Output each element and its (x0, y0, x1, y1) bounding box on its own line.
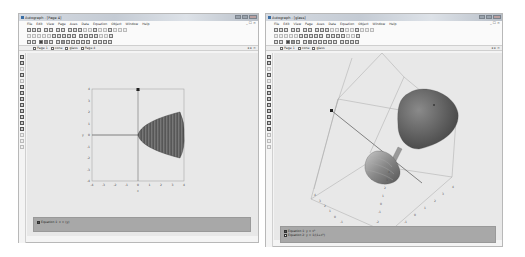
tab-page-1[interactable]: Page 1 (280, 46, 295, 50)
tool-icon[interactable] (61, 40, 65, 44)
pen-tool-icon[interactable] (20, 73, 24, 77)
tool-icon[interactable] (20, 115, 24, 119)
shape-icon[interactable] (84, 34, 88, 38)
checkbox-icon[interactable] (284, 234, 287, 237)
menu-data[interactable]: Data (328, 22, 336, 26)
tab-controls[interactable]: ◂ ▸ × (491, 46, 500, 50)
point-icon[interactable] (279, 40, 283, 44)
close-button[interactable] (249, 15, 257, 19)
minimize-button[interactable] (235, 15, 241, 19)
tool-icon[interactable] (20, 121, 24, 125)
tool-icon[interactable] (104, 34, 108, 38)
transform-icon[interactable] (323, 40, 327, 44)
tool-icon[interactable] (267, 103, 271, 107)
select-tool-icon[interactable] (267, 55, 271, 59)
transform-icon[interactable] (328, 40, 332, 44)
tool-icon[interactable] (56, 40, 60, 44)
transform-icon[interactable] (304, 34, 308, 38)
tool-icon[interactable] (303, 40, 307, 44)
menu-window[interactable]: Window (373, 22, 386, 26)
shape-icon[interactable] (108, 40, 112, 44)
menu-file[interactable]: File (274, 22, 279, 26)
shape-icon[interactable] (93, 40, 97, 44)
tab-controls[interactable]: ◂ ▸ × (247, 46, 256, 50)
open-icon[interactable] (32, 28, 36, 32)
shape-icon[interactable] (331, 34, 335, 38)
tool-icon[interactable] (42, 34, 46, 38)
rotate-icon[interactable] (267, 97, 271, 101)
copy-icon[interactable] (49, 28, 53, 32)
mdi-controls[interactable]: _ ☐ × (490, 21, 500, 25)
tool-icon[interactable] (267, 145, 271, 149)
transform-icon[interactable] (314, 34, 318, 38)
tool-icon[interactable] (103, 28, 107, 32)
tool-icon[interactable] (267, 139, 271, 143)
shape-icon[interactable] (79, 34, 83, 38)
menu-window[interactable]: Window (126, 22, 139, 26)
save-icon[interactable] (37, 28, 41, 32)
tool-icon[interactable] (279, 34, 283, 38)
equation-icon[interactable] (39, 40, 43, 44)
shape-icon[interactable] (340, 40, 344, 44)
tool-icon[interactable] (99, 34, 103, 38)
tool-icon[interactable] (20, 109, 24, 113)
checkbox-icon[interactable] (37, 221, 40, 224)
zoom-in-icon[interactable] (20, 85, 24, 89)
tool-icon[interactable] (49, 40, 53, 44)
tool-icon[interactable] (20, 133, 24, 137)
tool-icon[interactable] (47, 34, 51, 38)
title-bar[interactable]: Autograph - [Page 4] (19, 14, 258, 21)
tool-icon[interactable] (113, 28, 117, 32)
copy-icon[interactable] (296, 28, 300, 32)
tool-icon[interactable] (118, 28, 122, 32)
equation-icon[interactable] (286, 40, 290, 44)
scale-icon[interactable] (73, 28, 77, 32)
shape-icon[interactable] (89, 34, 93, 38)
select-tool-icon[interactable] (20, 55, 24, 59)
tool-icon[interactable] (345, 28, 349, 32)
tool-icon[interactable] (88, 28, 92, 32)
undo-icon[interactable] (303, 28, 307, 32)
menu-data[interactable]: Data (81, 22, 89, 26)
close-button[interactable] (493, 15, 501, 19)
tool-icon[interactable] (284, 34, 288, 38)
grid-icon[interactable] (61, 28, 65, 32)
line-tool-icon[interactable] (20, 67, 24, 71)
scale-icon[interactable] (320, 28, 324, 32)
axes-icon[interactable] (325, 28, 329, 32)
menu-help[interactable]: Help (142, 22, 149, 26)
tool-icon[interactable] (32, 34, 36, 38)
shape-icon[interactable] (345, 40, 349, 44)
transform-icon[interactable] (309, 34, 313, 38)
tool-icon[interactable] (267, 115, 271, 119)
line-tool-icon[interactable] (267, 67, 271, 71)
select-icon[interactable] (27, 40, 31, 44)
menu-view[interactable]: View (47, 22, 55, 26)
point-tool-icon[interactable] (267, 61, 271, 65)
tool-icon[interactable] (123, 28, 127, 32)
maximize-button[interactable] (242, 15, 248, 19)
menu-edit[interactable]: Edit (283, 22, 289, 26)
table-icon[interactable] (44, 40, 48, 44)
transform-icon[interactable] (318, 40, 322, 44)
tool-icon[interactable] (93, 28, 97, 32)
minimize-button[interactable] (479, 15, 485, 19)
tool-icon[interactable] (27, 34, 31, 38)
point-tool-icon[interactable] (20, 61, 24, 65)
tool-icon[interactable] (356, 34, 360, 38)
tool-icon[interactable] (289, 34, 293, 38)
shape-icon[interactable] (341, 34, 345, 38)
circle-tool-icon[interactable] (267, 79, 271, 83)
axes-icon[interactable] (78, 28, 82, 32)
tab-page-1[interactable]: Page 1 (33, 46, 48, 50)
tool-icon[interactable] (365, 28, 369, 32)
tab-glass[interactable]: glass (312, 46, 324, 50)
shape-icon[interactable] (326, 34, 330, 38)
menu-equation[interactable]: Equation (340, 22, 354, 26)
text-icon[interactable] (355, 28, 359, 32)
tool-icon[interactable] (340, 28, 344, 32)
shape-icon[interactable] (350, 40, 354, 44)
transform-icon[interactable] (66, 40, 70, 44)
tool-icon[interactable] (20, 127, 24, 131)
tool-icon[interactable] (37, 34, 41, 38)
